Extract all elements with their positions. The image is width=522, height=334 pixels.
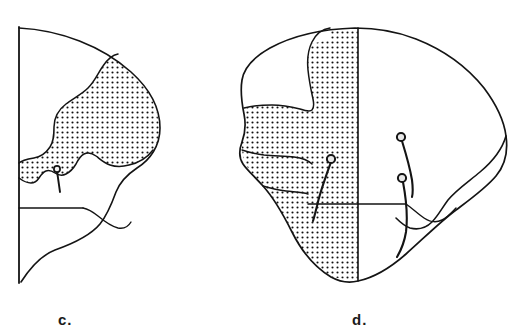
figure-page: c. d. xyxy=(0,0,522,334)
pin-d-3-head xyxy=(398,174,406,182)
pin-d-3 xyxy=(397,174,407,257)
pin-d-1-head xyxy=(327,155,335,163)
panel-c xyxy=(19,27,160,283)
panel-d xyxy=(240,28,507,282)
pin-c-1-head xyxy=(54,166,60,172)
panel-label-c: c. xyxy=(58,311,73,328)
pin-d-2-head xyxy=(397,133,405,141)
panel-label-d: d. xyxy=(352,311,367,328)
panel-d-lower-lobe-contour xyxy=(406,204,456,222)
panel-c-stipple-region xyxy=(19,54,159,183)
pin-c-1 xyxy=(54,166,60,192)
figure-illustration xyxy=(0,0,522,334)
panel-c-lower-lobe-contour xyxy=(83,208,131,228)
